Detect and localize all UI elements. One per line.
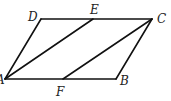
- segment-fc: [63, 19, 152, 79]
- labels: A B C D E F: [0, 3, 166, 99]
- label-f: F: [55, 85, 65, 99]
- label-c: C: [157, 12, 166, 26]
- label-a: A: [0, 73, 5, 87]
- segments: [5, 19, 152, 79]
- label-d: D: [27, 10, 38, 24]
- label-e: E: [89, 3, 99, 17]
- label-b: B: [119, 74, 129, 88]
- segment-bc: [116, 19, 152, 79]
- segment-ae: [5, 19, 93, 79]
- parallelogram-diagram: A B C D E F: [0, 0, 171, 101]
- segment-da: [5, 19, 41, 79]
